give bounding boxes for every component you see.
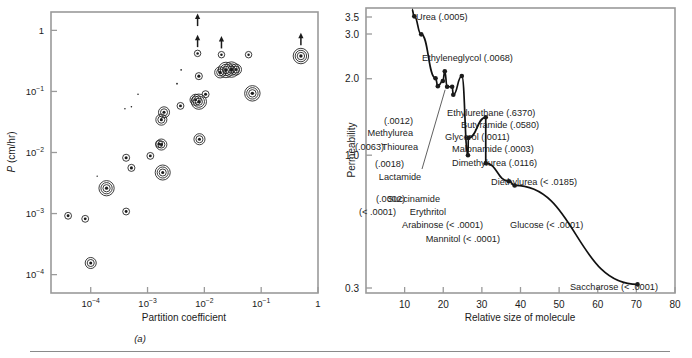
svg-text:10−4: 10−4 [82,297,101,309]
svg-text:Lactamide: Lactamide [379,172,421,182]
panel-b-x-axis-label: Relative size of molecule [465,312,576,323]
svg-text:1: 1 [39,25,44,36]
panel-b-point-labels: Urea (.0005)Ethyleneglycol (.0068)Methyl… [368,12,658,292]
svg-text:10−1: 10−1 [252,297,271,309]
panel-a-x-axis-ticks: 10−410−310−210−11 [82,287,321,309]
svg-text:10−3: 10−3 [26,207,45,219]
panel-b-svg: 3.53.02.01.00.3 1020304050607080 Urea (.… [345,0,692,330]
svg-text:70: 70 [631,299,643,310]
svg-text:Malonamide (.0003): Malonamide (.0003) [452,144,534,154]
svg-text:3.0: 3.0 [345,29,359,40]
panel-a-y-axis-label: P (cm/hr) [6,131,17,172]
svg-text:(< .0001): (< .0001) [359,207,396,217]
svg-text:Butyramide (.0580): Butyramide (.0580) [461,120,539,130]
svg-text:10−1: 10−1 [26,85,45,97]
svg-text:10−4: 10−4 [26,268,45,280]
svg-text:80: 80 [669,299,681,310]
svg-text:Glucose (< .0001): Glucose (< .0001) [510,220,583,230]
svg-text:(.0012): (.0012) [384,116,413,126]
panel-a-y-axis-ticks: 110−110−210−310−4 [26,25,57,280]
panel-a-svg: 110−110−210−310−4 10−410−310−210−11 Part… [0,0,345,330]
svg-text:60: 60 [592,299,604,310]
svg-text:Permeability: Permeability [346,122,357,177]
figure-container: 110−110−210−310−4 10−410−310−210−11 Part… [0,0,692,358]
svg-text:Ethylurethane (.6370): Ethylurethane (.6370) [447,108,535,118]
svg-text:Arabinose (< .0001): Arabinose (< .0001) [402,220,483,230]
panel-a-plot-frame [51,12,318,293]
svg-text:Dimethylurea (.0116): Dimethylurea (.0116) [452,158,537,168]
svg-text:Glycerol (.0011): Glycerol (.0011) [445,132,510,142]
svg-text:(.0063): (.0063) [355,142,384,152]
panel-a-data-points [65,14,309,269]
svg-text:Methylurea: Methylurea [368,128,414,138]
svg-text:1: 1 [315,298,320,309]
svg-text:10−2: 10−2 [26,146,45,158]
svg-text:P (cm/hr): P (cm/hr) [6,131,17,172]
svg-text:2.0: 2.0 [345,73,359,84]
svg-text:3.5: 3.5 [345,12,359,23]
panel-b-y-axis-label: Permeability [346,122,357,177]
svg-text:10: 10 [399,299,411,310]
panel-a-x-axis-label: Partition coefficient [142,312,227,323]
panel-b-line-plot: 3.53.02.01.00.3 1020304050607080 Urea (.… [345,0,692,358]
svg-text:0.3: 0.3 [345,283,359,294]
svg-text:50: 50 [554,299,566,310]
svg-text:Ethyleneglycol (.0068): Ethyleneglycol (.0068) [422,53,513,63]
svg-text:10−2: 10−2 [195,297,214,309]
svg-text:10−3: 10−3 [138,297,157,309]
panel-a-scatter-plot: 110−110−210−310−4 10−410−310−210−11 Part… [0,0,345,358]
panel-a-caption: (a) [120,333,160,344]
svg-text:Diethylurea (< .0185): Diethylurea (< .0185) [491,177,577,187]
svg-text:Thiourea: Thiourea [382,142,419,152]
svg-text:Mannitol (< .0001): Mannitol (< .0001) [426,234,500,244]
svg-text:40: 40 [515,299,527,310]
svg-text:Erythritol: Erythritol [410,207,446,217]
svg-text:(.0002): (.0002) [376,194,405,204]
svg-text:Saccharose (< .0001): Saccharose (< .0001) [570,282,658,292]
svg-text:Urea (.0005): Urea (.0005) [416,12,468,22]
svg-text:20: 20 [438,299,450,310]
svg-text:30: 30 [476,299,488,310]
svg-text:(.0018): (.0018) [375,159,404,169]
figure-divider-rule [30,351,670,352]
